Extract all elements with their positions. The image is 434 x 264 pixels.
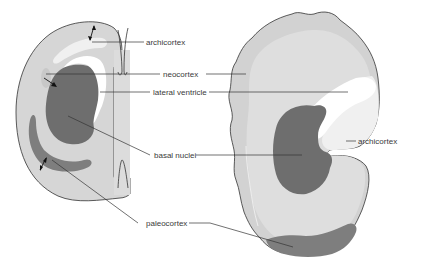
early-hemisphere-section <box>16 22 130 201</box>
label-archicortex-right: archicortex <box>358 137 397 146</box>
label-archicortex-left: archicortex <box>146 38 185 47</box>
brain-development-diagram: archicortex neocortex lateral ventricle … <box>0 0 434 264</box>
label-lateral-ventricle: lateral ventricle <box>153 88 207 97</box>
developed-hemisphere-section <box>229 12 379 257</box>
label-paleocortex: paleocortex <box>146 219 187 228</box>
label-neocortex: neocortex <box>163 70 198 79</box>
early-neocortex-patch <box>41 68 51 88</box>
label-basal-nuclei: basal nuclei <box>154 151 196 160</box>
